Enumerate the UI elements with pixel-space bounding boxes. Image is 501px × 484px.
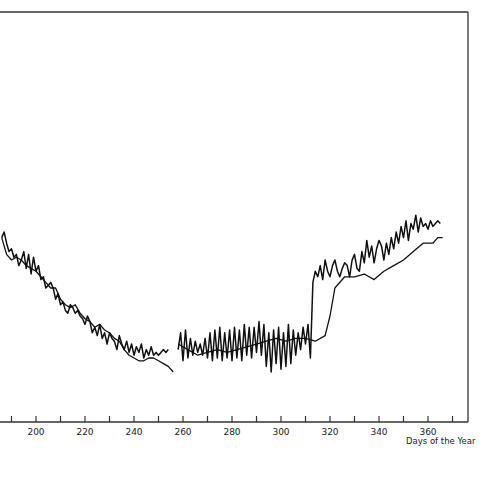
x-axis-ticks: [12, 416, 453, 422]
chart-canvas: 200220240260280300320340360 Days of the …: [0, 0, 501, 484]
x-axis-title: Days of the Year: [406, 436, 476, 446]
x-tick-label: 340: [370, 427, 387, 437]
x-tick-label: 240: [125, 427, 142, 437]
x-tick-label: 220: [76, 427, 93, 437]
x-tick-label: 260: [174, 427, 191, 437]
x-tick-label: 200: [27, 427, 44, 437]
x-tick-label: 300: [272, 427, 289, 437]
series-layer: [2, 215, 443, 372]
x-tick-label: 320: [321, 427, 338, 437]
series-a-line: [2, 232, 169, 358]
x-tick-label: 280: [223, 427, 240, 437]
plot-frame: [0, 12, 468, 422]
series-a-line: [178, 215, 440, 372]
x-axis-tick-labels: 200220240260280300320340360: [27, 427, 436, 437]
